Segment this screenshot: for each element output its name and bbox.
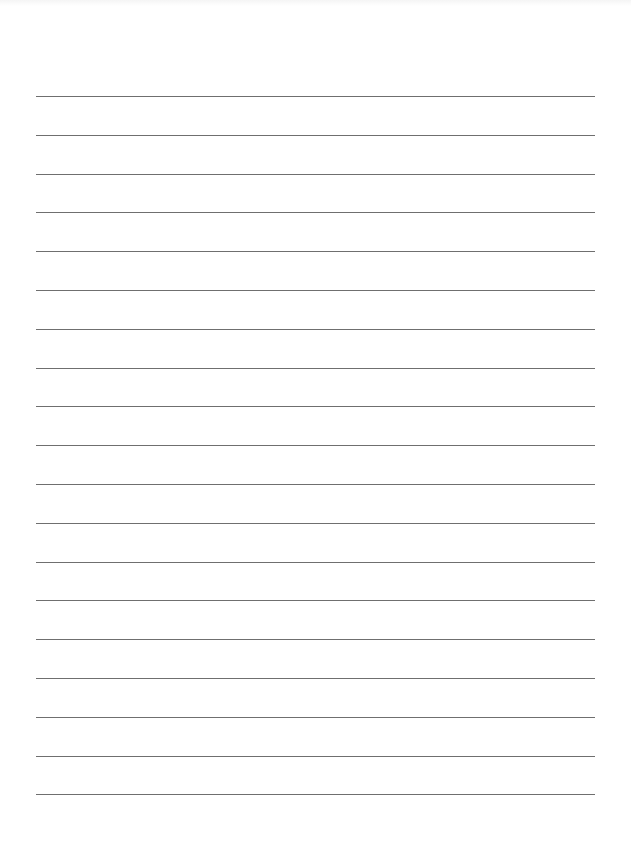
- ruled-line: [36, 174, 595, 175]
- ruled-line: [36, 329, 595, 330]
- ruled-line: [36, 717, 595, 718]
- ruled-line: [36, 251, 595, 252]
- ruled-line: [36, 135, 595, 136]
- ruled-line: [36, 639, 595, 640]
- ruled-line: [36, 406, 595, 407]
- ruled-line: [36, 678, 595, 679]
- ruled-line: [36, 562, 595, 563]
- ruled-line: [36, 290, 595, 291]
- ruled-line: [36, 756, 595, 757]
- ruled-line: [36, 96, 595, 97]
- ruled-line: [36, 445, 595, 446]
- ruled-line: [36, 600, 595, 601]
- ruled-line: [36, 484, 595, 485]
- ruled-line: [36, 212, 595, 213]
- ruled-line: [36, 794, 595, 795]
- ruled-line: [36, 368, 595, 369]
- ruled-line: [36, 523, 595, 524]
- scan-top-edge: [0, 0, 631, 6]
